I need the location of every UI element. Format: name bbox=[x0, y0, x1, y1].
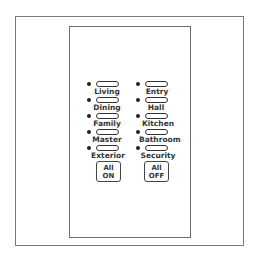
key-label: Family bbox=[87, 119, 127, 128]
all-off-line1: All bbox=[151, 164, 161, 172]
key-label: Exterior bbox=[88, 151, 128, 160]
key-label: Hall bbox=[136, 103, 176, 112]
led-indicator-icon bbox=[136, 98, 140, 102]
led-indicator-icon bbox=[87, 114, 91, 118]
all-off-button[interactable]: All OFF bbox=[144, 161, 169, 182]
key-label: Dining bbox=[87, 103, 127, 112]
led-indicator-icon bbox=[136, 130, 140, 134]
led-indicator-icon bbox=[87, 82, 91, 86]
led-indicator-icon bbox=[87, 146, 91, 150]
key-label: Bathroom bbox=[139, 135, 179, 144]
all-on-line2: ON bbox=[103, 172, 115, 180]
key-label: Kitchen bbox=[138, 119, 178, 128]
led-indicator-icon bbox=[136, 82, 140, 86]
led-indicator-icon bbox=[87, 98, 91, 102]
led-indicator-icon bbox=[136, 146, 140, 150]
key-label: Entry bbox=[137, 87, 177, 96]
key-label: Security bbox=[138, 151, 178, 160]
led-indicator-icon bbox=[87, 130, 91, 134]
all-on-button[interactable]: All ON bbox=[96, 161, 121, 182]
all-off-line2: OFF bbox=[149, 172, 165, 180]
led-indicator-icon bbox=[136, 114, 140, 118]
key-label: Master bbox=[87, 135, 127, 144]
key-label: Living bbox=[87, 87, 127, 96]
all-on-line1: All bbox=[103, 164, 113, 172]
